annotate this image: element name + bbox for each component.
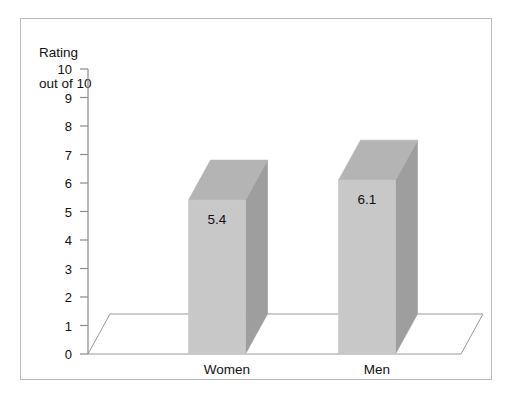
y-axis-tick-label: 2	[46, 290, 72, 305]
chart-figure-frame: Rating out of 10 012345678910 WomenMen 5…	[20, 18, 492, 380]
y-axis-tick-label: 1	[46, 318, 72, 333]
floor-plane	[88, 314, 483, 354]
y-axis-tick-label: 0	[46, 347, 72, 362]
y-axis-tick-label: 3	[46, 261, 72, 276]
x-axis-category-label: Men	[364, 362, 390, 377]
bar-chart-canvas	[21, 19, 493, 381]
x-axis-category-label: Women	[204, 362, 250, 377]
bar-value-label: 6.1	[358, 192, 377, 207]
y-axis-tick-label: 5	[46, 204, 72, 219]
y-axis-tick-label: 8	[46, 119, 72, 134]
y-axis-tick-label: 6	[46, 176, 72, 191]
y-axis-tick-label: 7	[46, 147, 72, 162]
y-axis-tick-label: 10	[46, 62, 72, 77]
bar-value-label: 5.4	[208, 212, 227, 227]
y-axis-tick-label: 4	[46, 233, 72, 248]
y-axis-tick-label: 9	[46, 90, 72, 105]
clipped-caption-sliver	[22, 0, 322, 3]
y-axis-ticks	[80, 69, 88, 354]
